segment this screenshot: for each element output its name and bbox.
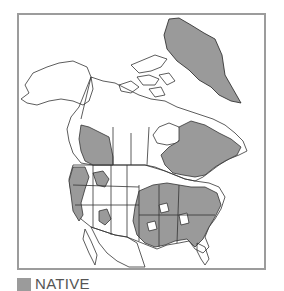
north-america-map [19,15,264,268]
native-west-coast [69,167,89,221]
native-swatch [17,278,31,291]
native-bc [79,125,113,165]
greenland-region [164,18,241,103]
range-map [17,13,266,270]
legend: NATIVE [17,277,90,291]
legend-label-native: NATIVE [35,277,90,291]
